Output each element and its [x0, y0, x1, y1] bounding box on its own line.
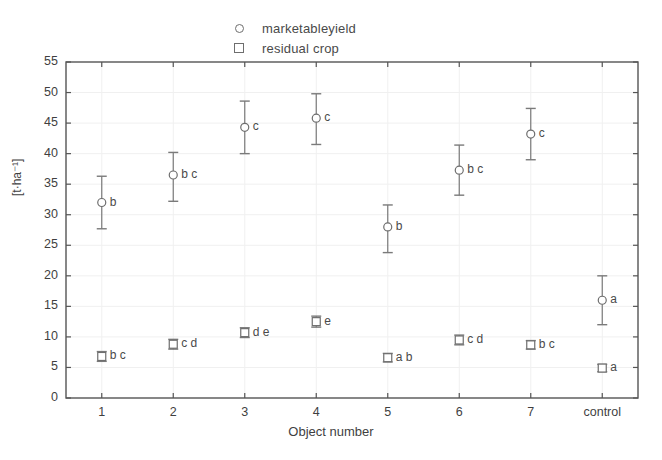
y-tick-label: 20 [28, 268, 58, 282]
point-significance-label: c d [181, 336, 197, 350]
x-tick-label: 6 [424, 405, 494, 419]
point-significance-label: b [396, 219, 403, 233]
chart-figure: marketableyield residual crop [t·ha⁻¹] O… [0, 0, 662, 460]
x-tick-label: 7 [496, 405, 566, 419]
point-significance-label: b c [539, 337, 555, 351]
y-tick-label: 15 [28, 298, 58, 312]
point-significance-label: a [610, 360, 617, 374]
point-significance-label: a b [396, 350, 413, 364]
x-tick-label: 3 [210, 405, 280, 419]
x-tick-label: 5 [353, 405, 423, 419]
y-tick-label: 0 [28, 390, 58, 404]
y-tick-label: 45 [28, 115, 58, 129]
point-significance-label: c [253, 119, 259, 133]
point-significance-label: a [610, 292, 617, 306]
x-tick-label: 1 [67, 405, 137, 419]
y-tick-label: 40 [28, 146, 58, 160]
plot-area [0, 0, 662, 460]
y-tick-label: 50 [28, 85, 58, 99]
y-tick-label: 35 [28, 176, 58, 190]
point-significance-label: b [110, 195, 117, 209]
point-significance-label: d e [253, 325, 270, 339]
point-significance-label: b c [110, 348, 126, 362]
point-significance-label: b c [467, 162, 483, 176]
y-tick-label: 30 [28, 207, 58, 221]
y-tick-label: 25 [28, 237, 58, 251]
point-significance-label: b c [181, 167, 197, 181]
point-significance-label: c [324, 110, 330, 124]
point-significance-label: c [539, 126, 545, 140]
y-tick-label: 55 [28, 54, 58, 68]
y-tick-label: 5 [28, 359, 58, 373]
point-significance-label: e [324, 314, 331, 328]
x-tick-label: 4 [281, 405, 351, 419]
x-tick-label: 2 [138, 405, 208, 419]
x-tick-label: control [567, 405, 637, 419]
y-tick-label: 10 [28, 329, 58, 343]
point-significance-label: c d [467, 332, 483, 346]
